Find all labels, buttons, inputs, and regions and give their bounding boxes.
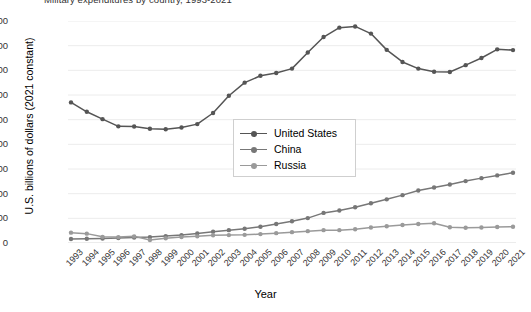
y-tick-label: 700 (0, 65, 8, 75)
data-point (463, 179, 467, 183)
data-point (369, 201, 373, 205)
data-point (242, 80, 246, 84)
y-tick-label: 300 (0, 164, 8, 174)
chart-title: Military expenditures by country, 1993-2… (44, 0, 232, 5)
data-point (274, 231, 278, 235)
data-point (100, 117, 104, 121)
data-point (448, 225, 452, 229)
y-tick-label: 200 (0, 189, 8, 199)
data-point (495, 47, 499, 51)
data-point (100, 235, 104, 239)
data-point (148, 127, 152, 131)
legend-item-china[interactable]: China (240, 141, 349, 157)
data-point (463, 63, 467, 67)
data-point (148, 238, 152, 242)
series-line (71, 26, 513, 129)
data-point (211, 233, 215, 237)
data-point (463, 226, 467, 230)
data-point (400, 193, 404, 197)
data-point (306, 216, 310, 220)
data-point (400, 60, 404, 64)
data-point (353, 24, 357, 28)
y-axis-title: U.S. billions of dollars (2021 constant) (23, 1, 35, 251)
data-point (432, 185, 436, 189)
data-point (258, 225, 262, 229)
data-point (242, 226, 246, 230)
legend-label-russia: Russia (274, 159, 306, 171)
data-point (495, 173, 499, 177)
data-point (164, 127, 168, 131)
data-point (274, 71, 278, 75)
data-point (416, 188, 420, 192)
data-point (321, 228, 325, 232)
y-tick-label: 400 (0, 139, 8, 149)
data-point (227, 94, 231, 98)
chart-legend: United States China Russia (233, 119, 356, 177)
data-point (337, 25, 341, 29)
data-point (448, 182, 452, 186)
data-point (258, 74, 262, 78)
data-point (164, 236, 168, 240)
data-point (416, 222, 420, 226)
data-point (211, 111, 215, 115)
y-tick-label: 600 (0, 90, 8, 100)
data-point (290, 66, 294, 70)
data-point (337, 228, 341, 232)
data-point (385, 48, 389, 52)
x-axis-title: Year (0, 288, 531, 300)
data-point (385, 197, 389, 201)
data-point (306, 50, 310, 54)
data-point (511, 48, 515, 52)
data-point (290, 219, 294, 223)
legend-item-russia[interactable]: Russia (240, 157, 349, 173)
data-point (369, 31, 373, 35)
legend-marker-russia (240, 160, 267, 170)
data-point (479, 56, 483, 60)
data-point (85, 237, 89, 241)
y-tick-label: 100 (0, 213, 8, 223)
data-point (400, 223, 404, 227)
data-point (132, 234, 136, 238)
data-point (290, 230, 294, 234)
data-point (85, 110, 89, 114)
data-point (337, 208, 341, 212)
data-point (353, 205, 357, 209)
data-point (479, 176, 483, 180)
data-point (432, 70, 436, 74)
data-point (85, 231, 89, 235)
data-point (321, 211, 325, 215)
data-point (495, 225, 499, 229)
data-point (69, 230, 73, 234)
y-tick-label: 500 (0, 115, 8, 125)
data-point (448, 70, 452, 74)
data-point (227, 233, 231, 237)
legend-marker-china (240, 144, 267, 154)
data-point (242, 233, 246, 237)
data-point (69, 237, 73, 241)
data-point (321, 35, 325, 39)
chart-container: Military expenditures by country, 1993-2… (0, 0, 531, 312)
data-point (227, 228, 231, 232)
legend-item-united-states[interactable]: United States (240, 125, 349, 141)
series-united-states (69, 24, 515, 131)
y-tick-label: 900 (0, 16, 8, 26)
data-point (432, 221, 436, 225)
y-tick-label: 0 (0, 238, 8, 248)
data-point (479, 225, 483, 229)
data-point (195, 234, 199, 238)
data-point (385, 224, 389, 228)
data-point (116, 235, 120, 239)
y-tick-label: 800 (0, 41, 8, 51)
legend-marker-united-states (240, 128, 267, 138)
data-point (274, 222, 278, 226)
data-point (258, 232, 262, 236)
series-line (71, 173, 513, 239)
data-point (69, 100, 73, 104)
data-point (353, 227, 357, 231)
data-point (179, 125, 183, 129)
data-point (306, 229, 310, 233)
data-point (179, 235, 183, 239)
data-point (116, 124, 120, 128)
legend-label-china: China (274, 143, 301, 155)
legend-label-united-states: United States (274, 127, 337, 139)
